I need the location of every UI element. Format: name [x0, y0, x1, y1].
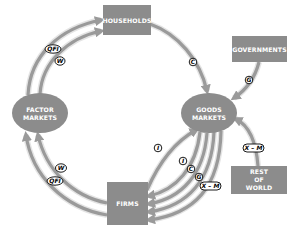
flow-rest-of-world-to-goods: [236, 119, 258, 166]
rest-of-world-label-line2: OF: [254, 176, 264, 183]
svg-text:X – M: X – M: [244, 144, 263, 151]
goods-markets-label-line1: GOODS: [196, 106, 222, 113]
node-firms: FIRMS: [107, 182, 148, 225]
tag-i-inner: I: [179, 157, 187, 165]
node-factor-markets: FACTOR MARKETS: [12, 93, 68, 133]
node-goods-markets: GOODS MARKETS: [181, 93, 237, 133]
tag-i-outer: I: [154, 144, 162, 152]
households-label: HOUSEHOLDS: [102, 17, 151, 24]
svg-text:W: W: [57, 57, 64, 64]
firms-label: FIRMS: [116, 200, 138, 207]
svg-text:QFI: QFI: [47, 45, 59, 52]
node-rest-of-world: REST OF WORLD: [231, 166, 287, 194]
tag-qfi-top: QFI: [45, 45, 61, 53]
tag-x-m-world: X – M: [243, 144, 264, 152]
tag-w-bottom: W: [56, 164, 67, 172]
rest-of-world-label-line3: WORLD: [246, 184, 272, 191]
svg-text:QFI: QFI: [49, 177, 61, 184]
tag-x-m-goods: X – M: [200, 182, 221, 190]
tag-c-households: C: [189, 58, 197, 66]
tag-g-goods: G: [195, 173, 203, 181]
factor-markets-label-line2: MARKETS: [23, 114, 57, 121]
svg-text:G: G: [247, 76, 252, 83]
tag-qfi-bottom: QFI: [47, 177, 63, 185]
flow-households-to-goods: [150, 24, 207, 91]
rest-of-world-label-line1: REST: [250, 168, 269, 175]
svg-text:C: C: [189, 165, 194, 172]
svg-text:C: C: [191, 58, 196, 65]
node-households: HOUSEHOLDS: [102, 5, 151, 35]
svg-text:X – M: X – M: [201, 182, 220, 189]
flow-factor-to-households: [28, 20, 101, 95]
governments-label: GOVERNMENTS: [232, 46, 286, 53]
circular-flow-diagram: HOUSEHOLDS GOVERNMENTS FACTOR MARKETS GO…: [0, 0, 302, 238]
svg-text:W: W: [58, 164, 65, 171]
node-governments: GOVERNMENTS: [232, 36, 287, 62]
tag-g-governments: G: [245, 76, 253, 84]
tag-c-goods: C: [187, 165, 195, 173]
factor-markets-label-line1: FACTOR: [26, 106, 54, 113]
goods-markets-label-line2: MARKETS: [192, 114, 226, 121]
flow-firms-to-factor: [26, 135, 107, 215]
svg-text:G: G: [197, 173, 202, 180]
tag-w-top: W: [55, 57, 65, 65]
